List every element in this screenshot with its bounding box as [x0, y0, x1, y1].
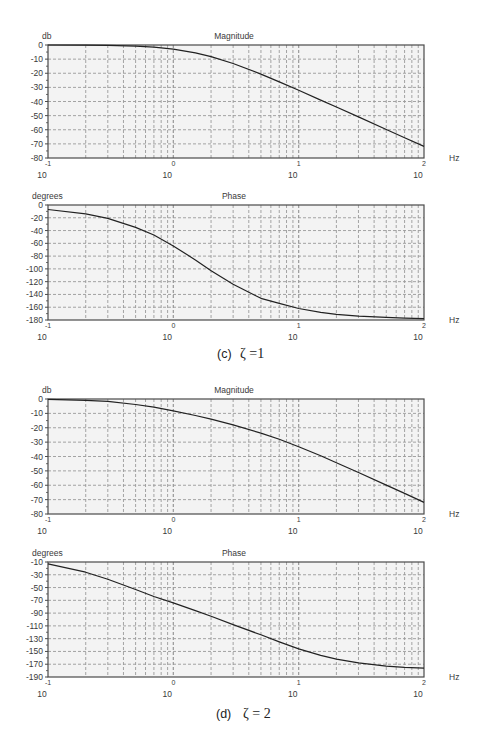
chart-title: Phase	[222, 548, 246, 558]
y-tick-label: -80	[31, 153, 44, 163]
y-axis-label: db	[42, 385, 52, 395]
x-tick-exponent: 1	[297, 516, 301, 523]
y-tick-label: -50	[31, 583, 44, 593]
y-tick-label: 0	[38, 394, 43, 404]
chart-title: Phase	[222, 191, 246, 201]
y-tick-label: -50	[31, 466, 44, 476]
y-tick-label: -160	[26, 302, 43, 312]
x-tick-base: 10	[413, 332, 423, 342]
x-axis-unit-label: Hz	[449, 509, 459, 519]
x-axis-unit-label: Hz	[449, 315, 459, 325]
x-tick-base: 10	[413, 689, 423, 699]
x-tick-exponent: -1	[45, 322, 51, 329]
x-axis-unit-label: Hz	[449, 153, 459, 163]
y-tick-label: -70	[31, 595, 44, 605]
x-tick-exponent: -1	[45, 160, 51, 167]
x-tick-base: 10	[163, 332, 173, 342]
figure-caption: (d)ζ = 2	[216, 706, 271, 721]
y-axis-label: degrees	[32, 548, 63, 558]
x-tick-exponent: 2	[422, 160, 426, 167]
y-tick-label: -20	[31, 68, 44, 78]
y-tick-label: -120	[26, 277, 43, 287]
y-tick-label: -40	[31, 452, 44, 462]
caption-damping-ratio: ζ = 2	[243, 706, 271, 721]
magnitude-plot-zeta-2: 0-10-20-30-40-50-60-70-80-110010110210Hz…	[31, 385, 460, 536]
y-tick-label: -40	[31, 97, 44, 107]
x-axis-unit-label: Hz	[449, 672, 459, 682]
x-tick-exponent: 0	[171, 516, 175, 523]
y-tick-label: -80	[31, 509, 44, 519]
y-tick-label: -190	[26, 672, 43, 682]
x-tick-base: 10	[37, 689, 47, 699]
x-tick-exponent: 0	[171, 160, 175, 167]
y-tick-label: 0	[38, 200, 43, 210]
x-tick-base: 10	[288, 332, 298, 342]
y-tick-label: 0	[38, 40, 43, 50]
y-tick-label: -90	[31, 608, 44, 618]
y-tick-label: -60	[31, 480, 44, 490]
x-tick-exponent: 0	[171, 679, 175, 686]
x-tick-exponent: -1	[45, 516, 51, 523]
x-tick-exponent: 2	[422, 516, 426, 523]
figure-caption: (c)ζ =1	[217, 346, 264, 361]
y-tick-label: -170	[26, 659, 43, 669]
y-tick-label: -10	[31, 54, 44, 64]
x-tick-base: 10	[413, 170, 423, 180]
x-tick-exponent: 1	[297, 679, 301, 686]
x-tick-base: 10	[37, 526, 47, 536]
y-tick-label: -70	[31, 139, 44, 149]
x-tick-base: 10	[163, 170, 173, 180]
y-tick-label: -100	[26, 264, 43, 274]
y-tick-label: -20	[31, 213, 44, 223]
y-tick-label: -20	[31, 423, 44, 433]
x-tick-exponent: 2	[422, 679, 426, 686]
phase-plot-zeta-1: 0-20-40-60-80-100-120-140-160-180-110010…	[26, 191, 459, 342]
y-axis-label: degrees	[32, 191, 63, 201]
x-tick-exponent: -1	[45, 679, 51, 686]
caption-label: (c)	[217, 347, 232, 361]
x-tick-base: 10	[288, 689, 298, 699]
bode-plot-canvas: 0-10-20-30-40-50-60-70-80-110010110210Hz…	[0, 0, 486, 736]
x-tick-base: 10	[288, 526, 298, 536]
chart-title: Magnitude	[214, 31, 254, 41]
y-tick-label: -70	[31, 495, 44, 505]
x-tick-base: 10	[413, 526, 423, 536]
phase-plot-zeta-2: -10-30-50-70-90-110-130-150-170-190-1100…	[26, 548, 459, 699]
y-tick-label: -80	[31, 251, 44, 261]
y-tick-label: -110	[27, 621, 44, 631]
y-tick-label: -60	[31, 238, 44, 248]
y-tick-label: -10	[31, 408, 44, 418]
x-tick-exponent: 1	[297, 322, 301, 329]
caption-label: (d)	[216, 707, 231, 721]
plot-area	[48, 562, 424, 677]
chart-title: Magnitude	[214, 385, 254, 395]
plot-area	[48, 205, 424, 320]
y-tick-label: -40	[31, 226, 44, 236]
y-tick-label: -150	[26, 646, 43, 656]
x-tick-base: 10	[288, 170, 298, 180]
x-tick-base: 10	[37, 332, 47, 342]
y-tick-label: -140	[26, 289, 43, 299]
y-tick-label: -180	[26, 315, 43, 325]
caption-damping-ratio: ζ =1	[240, 346, 264, 361]
bode-plot-figure: 0-10-20-30-40-50-60-70-80-110010110210Hz…	[0, 0, 486, 736]
y-tick-label: -130	[26, 634, 43, 644]
y-axis-label: db	[42, 31, 52, 41]
y-tick-label: -30	[31, 570, 44, 580]
y-tick-label: -50	[31, 111, 44, 121]
y-tick-label: -60	[31, 125, 44, 135]
x-tick-base: 10	[37, 170, 47, 180]
x-tick-exponent: 2	[422, 322, 426, 329]
y-tick-label: -30	[31, 82, 44, 92]
x-tick-exponent: 1	[297, 160, 301, 167]
magnitude-plot-zeta-1: 0-10-20-30-40-50-60-70-80-110010110210Hz…	[31, 31, 460, 180]
x-tick-exponent: 0	[171, 322, 175, 329]
x-tick-base: 10	[163, 526, 173, 536]
y-tick-label: -30	[31, 437, 44, 447]
x-tick-base: 10	[163, 689, 173, 699]
y-tick-label: -10	[31, 557, 44, 567]
